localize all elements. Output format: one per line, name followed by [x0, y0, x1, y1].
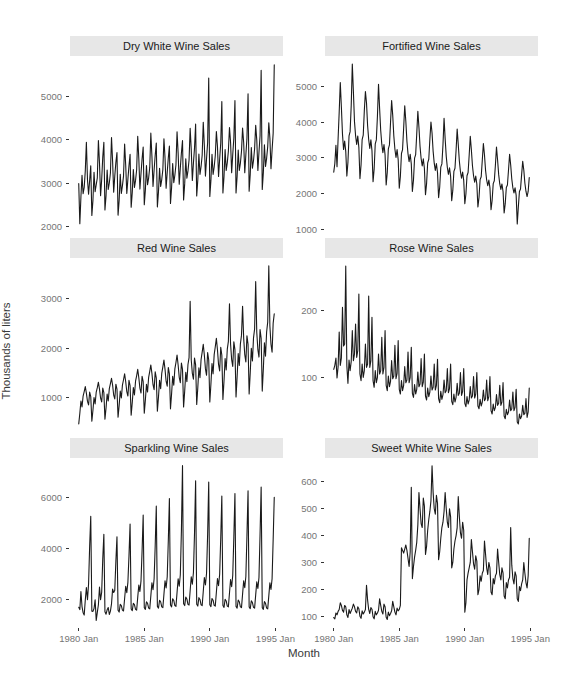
- x-tick-label: 1995 Jan: [499, 633, 561, 644]
- facet-sparkling: Sparkling Wine Sales 2000400060001980 Ja…: [70, 438, 283, 628]
- y-tick-mark: [321, 481, 324, 482]
- facet-strip-red: Red Wine Sales: [70, 238, 283, 258]
- y-tick-label: 2000: [20, 221, 62, 232]
- y-tick-mark: [321, 589, 324, 590]
- time-series-line: [325, 258, 538, 432]
- facet-red: Red Wine Sales 100020003000: [70, 238, 283, 432]
- y-tick-label: 4000: [275, 117, 317, 128]
- y-tick-label: 200: [275, 305, 317, 316]
- y-tick-mark: [66, 497, 69, 498]
- facet-fortified: Fortified Wine Sales 1000200030004000500…: [325, 36, 538, 232]
- x-tick-mark: [275, 628, 276, 631]
- wine-sales-faceted-chart: Thousands of liters Dry White Wine Sales…: [0, 0, 576, 696]
- time-series-line: [70, 258, 283, 432]
- x-tick-mark: [464, 628, 465, 631]
- y-tick-label: 3000: [275, 152, 317, 163]
- y-tick-mark: [321, 157, 324, 158]
- plot-area-sparkling: [70, 458, 283, 628]
- y-tick-label: 200: [275, 584, 317, 595]
- plot-area-dry-white: [70, 56, 283, 232]
- y-tick-mark: [66, 599, 69, 600]
- facet-strip-sweet-white: Sweet White Wine Sales: [325, 438, 538, 458]
- facet-strip-sparkling: Sparkling Wine Sales: [70, 438, 283, 458]
- x-tick-label: 1985 Jan: [368, 633, 430, 644]
- y-tick-mark: [321, 535, 324, 536]
- y-tick-mark: [321, 562, 324, 563]
- y-tick-mark: [321, 86, 324, 87]
- plot-area-fortified: [325, 56, 538, 232]
- x-tick-mark: [78, 628, 79, 631]
- y-tick-label: 1000: [20, 392, 62, 403]
- x-tick-mark: [399, 628, 400, 631]
- y-tick-mark: [66, 548, 69, 549]
- y-tick-mark: [321, 193, 324, 194]
- x-tick-label: 1990 Jan: [179, 633, 241, 644]
- x-tick-label: 1980 Jan: [303, 633, 365, 644]
- y-tick-label: 100: [275, 372, 317, 383]
- x-tick-label: 1995 Jan: [244, 633, 306, 644]
- y-tick-label: 500: [275, 503, 317, 514]
- plot-area-sweet-white: [325, 458, 538, 628]
- y-tick-label: 2000: [20, 594, 62, 605]
- y-tick-label: 2000: [20, 343, 62, 354]
- facet-sweet-white: Sweet White Wine Sales 10020030040050060…: [325, 438, 538, 628]
- facet-strip-rose: Rose Wine Sales: [325, 238, 538, 258]
- y-tick-mark: [66, 298, 69, 299]
- y-tick-label: 3000: [20, 293, 62, 304]
- y-axis-title: Thousands of liters: [0, 291, 16, 411]
- y-tick-mark: [66, 183, 69, 184]
- time-series-line: [70, 56, 283, 232]
- y-tick-label: 300: [275, 557, 317, 568]
- y-tick-mark: [321, 508, 324, 509]
- y-tick-label: 5000: [20, 91, 62, 102]
- x-tick-mark: [209, 628, 210, 631]
- time-series-line: [325, 56, 538, 232]
- y-tick-label: 400: [275, 530, 317, 541]
- y-tick-mark: [321, 310, 324, 311]
- y-tick-mark: [321, 229, 324, 230]
- facet-strip-fortified: Fortified Wine Sales: [325, 36, 538, 56]
- y-tick-mark: [66, 397, 69, 398]
- y-tick-label: 4000: [20, 134, 62, 145]
- y-tick-label: 4000: [20, 543, 62, 554]
- y-tick-label: 5000: [275, 81, 317, 92]
- y-tick-mark: [321, 616, 324, 617]
- x-axis-title: Month: [174, 647, 434, 659]
- y-tick-label: 3000: [20, 178, 62, 189]
- facet-rose: Rose Wine Sales 100200: [325, 238, 538, 432]
- facet-dry-white: Dry White Wine Sales 2000300040005000: [70, 36, 283, 232]
- y-tick-mark: [66, 139, 69, 140]
- x-tick-label: 1990 Jan: [434, 633, 496, 644]
- x-tick-mark: [530, 628, 531, 631]
- y-tick-mark: [321, 377, 324, 378]
- y-tick-label: 600: [275, 476, 317, 487]
- facet-strip-dry-white: Dry White Wine Sales: [70, 36, 283, 56]
- x-tick-mark: [333, 628, 334, 631]
- time-series-line: [70, 458, 283, 628]
- plot-area-rose: [325, 258, 538, 432]
- x-tick-mark: [144, 628, 145, 631]
- x-tick-label: 1985 Jan: [113, 633, 175, 644]
- y-tick-label: 1000: [275, 224, 317, 235]
- time-series-line: [325, 458, 538, 628]
- y-tick-label: 100: [275, 611, 317, 622]
- plot-area-red: [70, 258, 283, 432]
- x-tick-label: 1980 Jan: [48, 633, 110, 644]
- y-tick-mark: [66, 226, 69, 227]
- y-tick-mark: [66, 96, 69, 97]
- y-tick-mark: [66, 348, 69, 349]
- y-tick-label: 6000: [20, 492, 62, 503]
- y-tick-label: 2000: [275, 188, 317, 199]
- y-tick-mark: [321, 122, 324, 123]
